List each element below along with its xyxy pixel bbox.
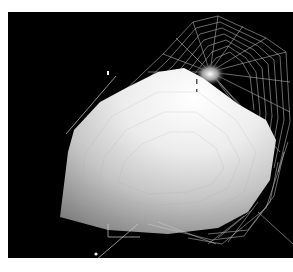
tick-marker-2 [196,89,198,92]
axis-endpoint-bottom [94,252,97,255]
render-canvas [8,12,293,258]
render-viewport [8,12,293,258]
tick-marker-1 [196,79,198,84]
axis-marker-left [107,71,109,75]
shaded-surface [60,68,276,234]
